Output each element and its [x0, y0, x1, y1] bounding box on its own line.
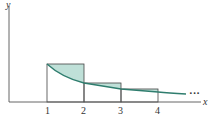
ellipsis: ···	[189, 87, 200, 99]
x-tick-2: 2	[81, 105, 86, 116]
x-axis-label: x	[202, 96, 208, 107]
x-tick-1: 1	[45, 105, 50, 116]
x-tick-4: 4	[155, 105, 160, 116]
shaded-area-1	[47, 64, 84, 83]
x-tick-3: 3	[118, 105, 123, 116]
y-axis-label: y	[5, 0, 11, 10]
diagram: y x ··· 1 2 3 4	[0, 0, 213, 118]
